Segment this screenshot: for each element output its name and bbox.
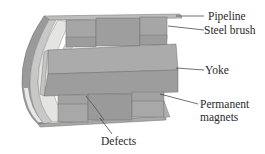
label-steel-brush: Steel brush xyxy=(204,24,255,36)
yoke-leader xyxy=(176,68,204,70)
permanent-magnets-leader xyxy=(160,94,198,104)
label-defects: Defects xyxy=(101,135,136,147)
steel-brush-leader xyxy=(168,26,204,30)
yoke-bar xyxy=(40,44,178,96)
label-magnets: magnets xyxy=(200,111,238,123)
label-pipeline: Pipeline xyxy=(208,10,246,22)
diagram-canvas: Pipeline Steel brush Yoke Permanent magn… xyxy=(0,0,265,154)
label-permanent: Permanent xyxy=(200,98,249,110)
label-yoke: Yoke xyxy=(205,64,229,76)
upper-permanent-magnets xyxy=(66,17,167,47)
